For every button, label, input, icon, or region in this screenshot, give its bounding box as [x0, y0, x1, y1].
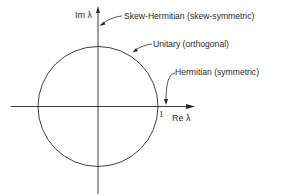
real-axis-arrowhead — [186, 104, 195, 109]
real-axis-label: Re λ — [172, 113, 191, 123]
skew-hermitian-label: Skew-Hermitian (skew-symmetric) — [124, 11, 254, 21]
hermitian-arrowhead — [164, 99, 168, 105]
eigenvalue-diagram: Im λ Re λ 1 Skew-Hermitian (skew-symmetr… — [0, 0, 286, 196]
hermitian-pointer — [166, 73, 175, 102]
hermitian-label: Hermitian (symmetric) — [175, 67, 259, 77]
unitary-label: Unitary (orthogonal) — [153, 39, 229, 49]
imaginary-axis-label: Im λ — [75, 10, 92, 20]
imaginary-axis-arrowhead — [96, 6, 100, 13]
unit-tick-label: 1 — [159, 109, 164, 119]
